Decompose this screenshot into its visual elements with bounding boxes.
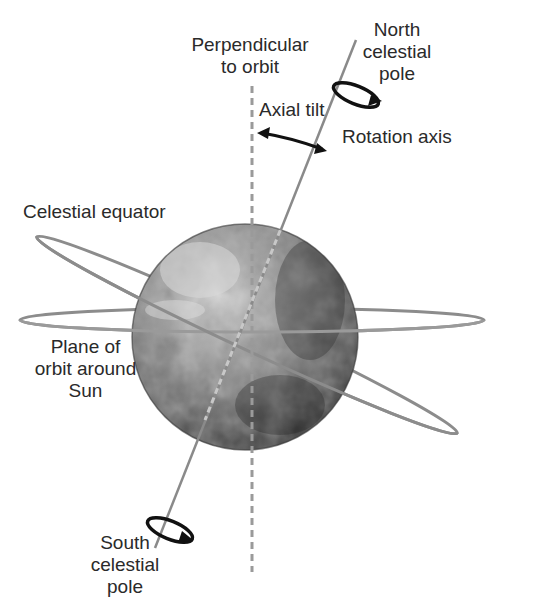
plane-of-orbit-label: Plane of orbit around Sun bbox=[28, 336, 143, 402]
label-line: orbit around bbox=[28, 358, 143, 380]
label-line: Plane of bbox=[28, 336, 143, 358]
axial-tilt-diagram bbox=[0, 0, 533, 613]
earth-globe bbox=[130, 222, 360, 452]
label-line: to orbit bbox=[190, 56, 310, 78]
label-line: North bbox=[352, 19, 442, 41]
label-line: pole bbox=[352, 63, 442, 85]
label-line: celestial bbox=[80, 554, 170, 576]
celestial-equator-label: Celestial equator bbox=[23, 201, 166, 223]
label-line: Sun bbox=[28, 380, 143, 402]
label-line: South bbox=[80, 532, 170, 554]
label-line: celestial bbox=[352, 41, 442, 63]
label-line: Perpendicular bbox=[190, 34, 310, 56]
south-celestial-pole-label: South celestial pole bbox=[80, 532, 170, 598]
label-line: pole bbox=[80, 576, 170, 598]
perpendicular-to-orbit-label: Perpendicular to orbit bbox=[190, 34, 310, 78]
rotation-axis-label: Rotation axis bbox=[342, 126, 452, 148]
north-celestial-pole-label: North celestial pole bbox=[352, 19, 442, 85]
axial-tilt-label: Axial tilt bbox=[259, 99, 324, 121]
